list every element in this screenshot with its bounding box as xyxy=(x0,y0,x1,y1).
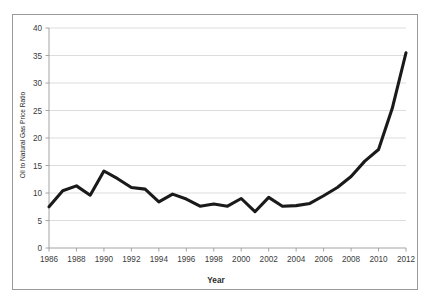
x-axis-ticks xyxy=(49,248,406,252)
x-tick-label: 1988 xyxy=(67,255,86,264)
y-tick-label: 20 xyxy=(33,134,43,143)
x-tick-label: 2010 xyxy=(369,255,388,264)
chart-frame: 0510152025303540 19861988199019921994199… xyxy=(12,14,418,290)
x-tick-label: 1996 xyxy=(177,255,196,264)
x-tick-label: 2006 xyxy=(315,255,334,264)
x-tick-label: 1992 xyxy=(122,255,141,264)
data-series-group xyxy=(49,53,406,212)
x-tick-label: 2000 xyxy=(232,255,251,264)
x-tick-label: 2002 xyxy=(260,255,279,264)
y-tick-label: 25 xyxy=(33,107,43,116)
y-tick-label: 30 xyxy=(33,79,43,88)
x-tick-label: 2008 xyxy=(342,255,361,264)
data-series-line xyxy=(49,53,406,212)
x-tick-label: 1986 xyxy=(40,255,59,264)
plot-area: 0510152025303540 19861988199019921994199… xyxy=(13,15,419,291)
line-chart: 0510152025303540 19861988199019921994199… xyxy=(13,15,419,291)
gridlines xyxy=(46,28,407,248)
y-tick-label: 35 xyxy=(33,52,43,61)
y-tick-label: 0 xyxy=(37,244,42,253)
y-axis-title: Oil to Natural Gas Price Ratio xyxy=(19,91,26,178)
x-axis-title: Year xyxy=(207,276,225,285)
x-tick-label: 1994 xyxy=(150,255,169,264)
x-tick-label: 2004 xyxy=(287,255,306,264)
y-axis-tick-labels: 0510152025303540 xyxy=(33,24,43,253)
y-tick-label: 10 xyxy=(33,189,43,198)
y-tick-label: 40 xyxy=(33,24,43,33)
y-tick-label: 15 xyxy=(33,162,43,171)
y-tick-label: 5 xyxy=(37,217,42,226)
x-tick-label: 1998 xyxy=(205,255,224,264)
x-tick-label: 2012 xyxy=(397,255,416,264)
x-axis-tick-labels: 1986198819901992199419961998200020022004… xyxy=(40,255,416,264)
x-tick-label: 1990 xyxy=(95,255,114,264)
chart-figure: 0510152025303540 19861988199019921994199… xyxy=(0,0,430,307)
